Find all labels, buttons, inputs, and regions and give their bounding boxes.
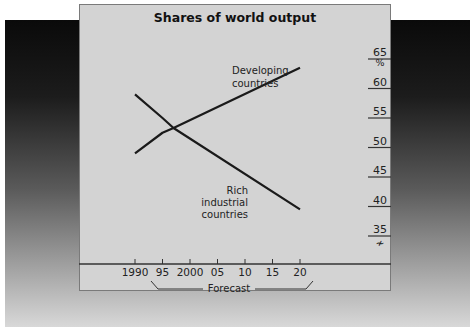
label-developing-1: Developing xyxy=(232,65,289,76)
y-unit-label: % xyxy=(375,57,384,68)
label-developing-2: countries xyxy=(232,78,278,89)
x-tick-label: 10 xyxy=(238,266,251,278)
x-tick-label: 2000 xyxy=(177,266,204,278)
forecast-bracket-left xyxy=(151,281,203,289)
x-tick-label: 1990 xyxy=(122,266,149,278)
forecast-bracket-right xyxy=(255,281,313,289)
y-axis-ticks: 35404550556065 xyxy=(368,46,391,236)
series-lines xyxy=(135,68,300,210)
label-rich-1: Rich xyxy=(226,185,248,196)
rich-industrial-line xyxy=(135,94,300,209)
y-tick-label: 50 xyxy=(373,135,387,148)
y-tick-label: 60 xyxy=(373,76,387,89)
x-tick-label: 95 xyxy=(156,266,169,278)
y-tick-label: 45 xyxy=(373,164,387,177)
axis-break-icon: ≁ xyxy=(375,237,384,250)
y-tick-label: 40 xyxy=(373,194,387,207)
chart-svg: 199095200005101520 35404550556065 % ≁ De… xyxy=(0,0,472,331)
label-rich-3: countries xyxy=(202,209,248,220)
x-tick-label: 15 xyxy=(266,266,279,278)
x-axis-ticks: 199095200005101520 xyxy=(122,259,307,278)
x-tick-label: 20 xyxy=(293,266,306,278)
forecast-label: Forecast xyxy=(208,283,250,294)
y-tick-label: 35 xyxy=(373,223,387,236)
label-rich-2: industrial xyxy=(201,197,248,208)
y-tick-label: 55 xyxy=(373,105,387,118)
x-tick-label: 05 xyxy=(211,266,224,278)
